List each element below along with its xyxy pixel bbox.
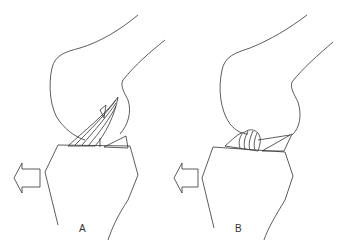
panel-label-a: A — [79, 223, 86, 234]
panel-label-b: B — [235, 223, 242, 234]
left-arrow-icon — [174, 163, 198, 193]
panel-b — [174, 15, 333, 240]
panel-a — [14, 15, 165, 240]
left-arrow-icon — [14, 163, 40, 193]
diagram — [0, 0, 346, 249]
